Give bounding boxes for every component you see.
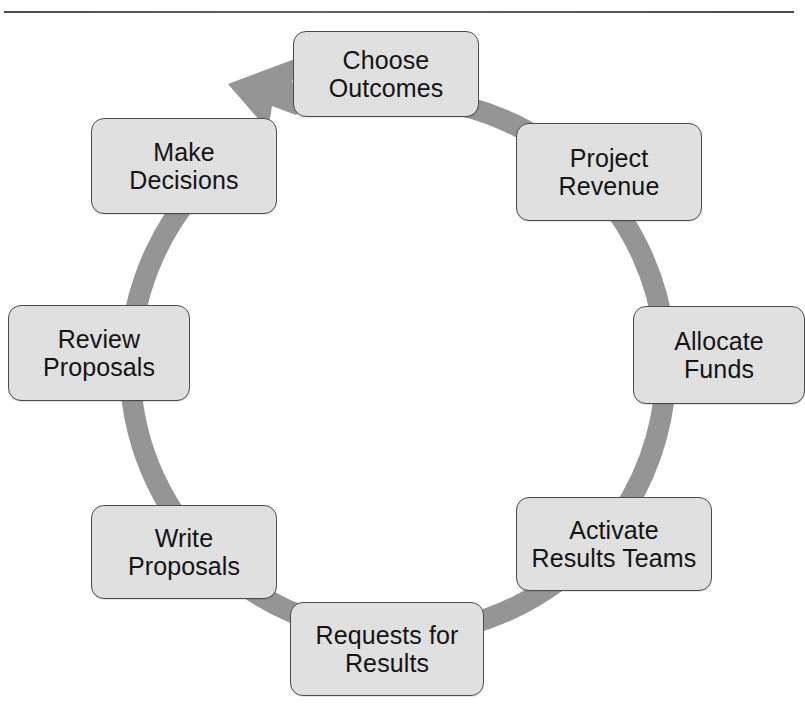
cycle-node-requests-for-results[interactable]: Requests for Results	[290, 602, 484, 696]
cycle-node-label: Write Proposals	[122, 524, 246, 580]
cycle-node-choose-outcomes[interactable]: Choose Outcomes	[293, 31, 479, 117]
cycle-node-label: Make Decisions	[123, 138, 244, 194]
top-horizontal-rule	[4, 11, 794, 13]
cycle-node-label: Review Proposals	[37, 325, 161, 381]
cycle-node-allocate-funds[interactable]: Allocate Funds	[633, 306, 805, 404]
cycle-node-label: Project Revenue	[553, 144, 666, 200]
cycle-node-label: Allocate Funds	[668, 327, 770, 383]
caption-remnant-clipped: Figure 2. The Budgeting-for-Outcomes Cyc…	[0, 0, 798, 6]
cycle-node-label: Choose Outcomes	[323, 46, 450, 102]
cycle-node-label: Activate Results Teams	[526, 516, 703, 572]
cycle-node-project-revenue[interactable]: Project Revenue	[516, 123, 702, 221]
cycle-node-make-decisions[interactable]: Make Decisions	[91, 118, 277, 214]
cycle-node-activate-results-teams[interactable]: Activate Results Teams	[516, 497, 712, 591]
cycle-node-write-proposals[interactable]: Write Proposals	[91, 505, 277, 599]
cycle-node-label: Requests for Results	[310, 621, 465, 677]
cycle-node-review-proposals[interactable]: Review Proposals	[8, 305, 190, 401]
